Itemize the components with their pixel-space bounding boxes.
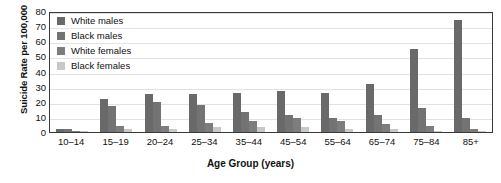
y-tick-label: 40 [35, 68, 46, 77]
bar-group [448, 13, 492, 132]
bar [366, 84, 374, 132]
bar [321, 93, 329, 132]
legend-item-label: Black females [71, 60, 130, 71]
legend-item: White females [57, 44, 131, 57]
bar [257, 127, 265, 132]
legend-item-label: Black males [71, 30, 122, 41]
legend-item: White males [57, 14, 131, 27]
bar-group [359, 13, 403, 132]
bar [345, 129, 353, 132]
bar [462, 118, 470, 132]
bar [124, 129, 132, 132]
bar-group [227, 13, 271, 132]
legend-swatch-icon [57, 32, 65, 40]
bar [249, 121, 257, 132]
bar-chart-figure: Suicide Rate per 100,000 010203040506070… [0, 0, 501, 183]
bar [285, 115, 293, 132]
bar [56, 129, 64, 132]
bar [454, 20, 462, 132]
bar [116, 126, 124, 132]
y-tick-label: 0 [41, 128, 46, 137]
bar-group [138, 13, 182, 132]
x-tick-label: 25–34 [182, 136, 226, 147]
bar [145, 94, 153, 132]
bar [382, 124, 390, 132]
bar [169, 129, 177, 132]
bar [189, 94, 197, 132]
y-tick-label: 80 [35, 7, 46, 16]
y-tick-label: 70 [35, 22, 46, 31]
bar [233, 93, 241, 132]
legend-swatch-icon [57, 62, 65, 70]
legend-item-label: White females [71, 45, 131, 56]
legend-item-label: White males [71, 15, 123, 26]
x-tick-label: 35–44 [227, 136, 271, 147]
legend-swatch-icon [57, 47, 65, 55]
bar [374, 115, 382, 132]
x-axis-title: Age Group (years) [0, 158, 501, 169]
x-tick-label: 10–14 [49, 136, 93, 147]
bar-group [315, 13, 359, 132]
bar [205, 123, 213, 132]
bar [161, 126, 169, 132]
y-tick-label: 10 [35, 113, 46, 122]
y-tick-label: 50 [35, 52, 46, 61]
y-tick-label: 60 [35, 37, 46, 46]
bar [64, 129, 72, 132]
bar-group [183, 13, 227, 132]
y-tick-label: 20 [35, 98, 46, 107]
bar [197, 105, 205, 132]
bar [329, 118, 337, 132]
chart-legend: White malesBlack malesWhite femalesBlack… [57, 14, 131, 74]
bar [478, 131, 486, 133]
bar [213, 127, 221, 132]
bar-group [271, 13, 315, 132]
legend-item: Black males [57, 29, 131, 42]
bar [418, 108, 426, 132]
bar [337, 121, 345, 132]
y-axis-tick-labels: 01020304050607080 [22, 0, 46, 183]
x-tick-label: 55–64 [315, 136, 359, 147]
bar [108, 106, 116, 132]
bar [301, 127, 309, 132]
x-tick-label: 85+ [449, 136, 493, 147]
x-tick-label: 75–84 [404, 136, 448, 147]
bar [241, 112, 249, 132]
bar [390, 129, 398, 132]
bar [410, 49, 418, 132]
bar [100, 99, 108, 132]
bar [470, 129, 478, 132]
bar [153, 102, 161, 132]
x-axis-tick-labels: 10–1415–1920–2425–3435–4445–5455–6465–74… [49, 136, 493, 147]
bar-group [404, 13, 448, 132]
bar [426, 126, 434, 132]
legend-item: Black females [57, 59, 131, 72]
bar [72, 131, 80, 133]
x-tick-label: 15–19 [93, 136, 137, 147]
bar [277, 91, 285, 132]
bar [293, 118, 301, 132]
x-tick-label: 20–24 [138, 136, 182, 147]
x-tick-label: 45–54 [271, 136, 315, 147]
bar [80, 131, 88, 133]
y-tick-label: 30 [35, 83, 46, 92]
legend-swatch-icon [57, 17, 65, 25]
x-tick-label: 65–74 [360, 136, 404, 147]
bar [434, 131, 442, 133]
